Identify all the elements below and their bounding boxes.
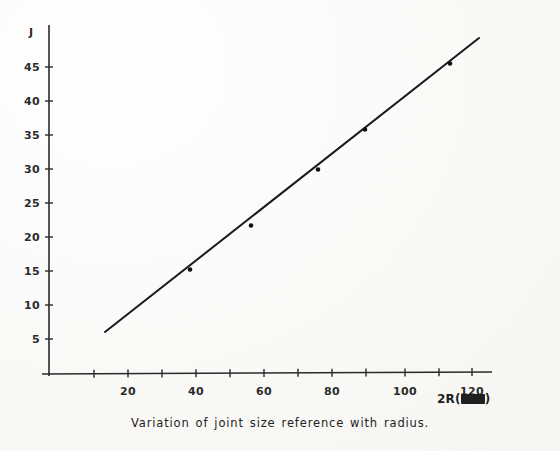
x-axis-unit-mm: mm: [461, 394, 485, 404]
y-tick-label: 30: [12, 163, 40, 176]
y-axis-title: J: [29, 26, 33, 39]
x-axis-title-prefix: 2R(: [437, 392, 461, 406]
x-tick-label: 40: [188, 385, 204, 398]
x-tick-label: 80: [324, 385, 340, 398]
y-tick-label: 45: [12, 61, 40, 74]
trend-line: [105, 38, 479, 332]
figure-caption: Variation of joint size reference with r…: [0, 416, 560, 430]
x-tick-label: 20: [120, 385, 136, 398]
x-axis-title: 2R(mm): [437, 392, 490, 406]
data-point-marker: [316, 167, 321, 172]
data-point-markers: [188, 61, 453, 272]
y-tick-label: 10: [12, 299, 40, 312]
y-tick-label: 40: [12, 95, 40, 108]
y-tick-label: 35: [12, 129, 40, 142]
data-point-marker: [188, 267, 193, 272]
data-point-marker: [448, 61, 453, 66]
x-tick-label: 100: [393, 385, 417, 398]
x-axis-title-suffix: ): [485, 392, 491, 406]
y-tick-label: 5: [12, 333, 40, 346]
x-axis-line: [42, 372, 492, 374]
x-tick-label: 60: [256, 385, 272, 398]
y-tick-label: 20: [12, 231, 40, 244]
plot-canvas: [0, 0, 560, 451]
y-tick-label: 15: [12, 265, 40, 278]
data-point-marker: [249, 223, 254, 228]
y-tick-label: 25: [12, 197, 40, 210]
data-point-marker: [363, 127, 368, 132]
figure-container: 45403530252015105 20406080100120 J 2R(mm…: [0, 0, 560, 451]
